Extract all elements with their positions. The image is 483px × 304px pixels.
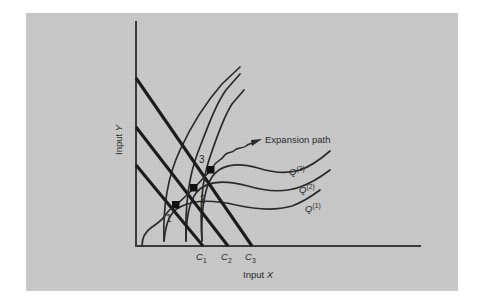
isoquant-label-q1: Q(1)	[305, 202, 321, 214]
isocost-line-c3	[136, 78, 252, 246]
isoquant-label-q2-sup: (2)	[306, 183, 314, 191]
tangency-marker-3	[207, 166, 215, 174]
x-axis-label-var: X	[266, 269, 274, 280]
isocost-label-c2-sub: 2	[228, 257, 232, 264]
isoquant-label-q2: Q(2)	[299, 183, 315, 195]
isocost-label-c1: C1	[196, 251, 207, 264]
figure-root: 1 2 3 C1 C2 C3 Q(3) Q(2) Q(1)	[0, 0, 483, 304]
tangency-marker-2	[190, 184, 198, 192]
x-axis-label-prefix: Input	[243, 269, 267, 280]
isocost-lines-group	[136, 78, 252, 246]
expansion-path-arrow-icon	[251, 139, 262, 146]
y-axis-label-prefix: Input	[113, 131, 124, 155]
annotation-group: Expansion path	[265, 134, 331, 145]
isocost-label-c2: C2	[221, 251, 232, 264]
isocost-labels-group: C1 C2 C3	[196, 251, 256, 264]
tangency-marker-1	[172, 201, 180, 209]
tangency-label-1: 1	[166, 213, 172, 224]
isocost-label-c1-sub: 1	[203, 257, 207, 264]
isoquant-label-q1-sup: (1)	[312, 202, 320, 210]
y-axis-label-var: Y	[113, 124, 124, 131]
expansion-path-label: Expansion path	[265, 134, 331, 145]
x-axis-label: Input X	[243, 269, 274, 280]
expansion-path-leader-group	[212, 139, 262, 168]
tangency-label-2: 2	[200, 194, 206, 205]
isocost-label-c3: C3	[245, 251, 256, 264]
plot-canvas: 1 2 3 C1 C2 C3 Q(3) Q(2) Q(1)	[0, 0, 483, 304]
y-axis-label: Input Y	[113, 124, 124, 155]
isoquant-label-q3: Q(3)	[289, 165, 305, 177]
isoquant-label-q3-sup: (3)	[296, 165, 304, 173]
expansion-path-leader-line	[212, 142, 255, 168]
isocost-label-c3-sub: 3	[252, 257, 256, 264]
tangency-label-3: 3	[199, 154, 205, 165]
